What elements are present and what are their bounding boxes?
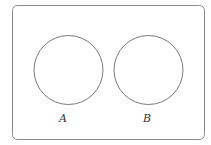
venn-diagram: A B [0, 0, 211, 145]
set-a-label: A [58, 112, 67, 125]
universe-rectangle [13, 6, 205, 140]
set-b-circle [114, 36, 183, 105]
set-b-label: B [142, 112, 151, 125]
set-a-circle [34, 36, 103, 105]
